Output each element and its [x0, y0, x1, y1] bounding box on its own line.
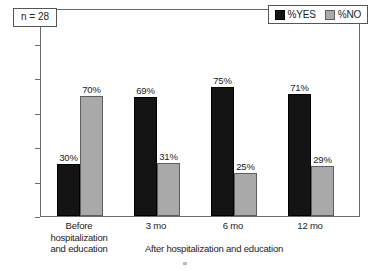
sample-size-box: n = 28: [13, 8, 57, 27]
x-group-label-line: Before: [50, 220, 107, 232]
bar-value-label: 69%: [130, 85, 161, 96]
bar-value-label: 31%: [153, 151, 184, 162]
legend-label-yes: %YES: [288, 9, 316, 20]
x-group-label-line: hospitalization: [50, 232, 107, 244]
bar-value-label: 71%: [284, 82, 315, 93]
x-group-label-line: and education: [50, 243, 107, 255]
legend-swatch-no-icon: [325, 10, 335, 20]
bar-value-label: 29%: [307, 154, 338, 165]
bar-no-0: [80, 96, 103, 216]
y-tick-mark: [35, 217, 40, 218]
x-group-label-line: 3 mo: [146, 220, 166, 232]
bar-no-1: [157, 163, 180, 216]
bar-yes-0: [57, 164, 80, 216]
x-group-label-2: 6 mo: [223, 220, 243, 232]
bar-chart-figure: 0%20%40%60%80%100% 30%70%69%31%75%25%71%…: [0, 0, 372, 271]
x-group-label-3: 12 mo: [297, 220, 322, 232]
chart-legend: %YES %NO: [268, 5, 368, 24]
scan-artifact: [183, 262, 187, 265]
bar-no-3: [311, 166, 334, 216]
legend-label-no: %NO: [338, 9, 361, 20]
plot-area: 30%70%69%31%75%25%71%29%: [40, 9, 360, 217]
legend-swatch-yes-icon: [275, 10, 285, 20]
bar-value-label: 70%: [76, 84, 107, 95]
x-group-label-0: Beforehospitalizationand education: [50, 220, 107, 255]
x-group-label-line: 12 mo: [297, 220, 322, 232]
bar-no-2: [234, 173, 257, 216]
legend-item-no: %NO: [325, 9, 361, 20]
bar-value-label: 25%: [230, 161, 261, 172]
legend-item-yes: %YES: [275, 9, 316, 20]
bar-value-label: 75%: [207, 75, 238, 86]
x-group-label-1: 3 mo: [146, 220, 166, 232]
x-axis-caption: After hospitalization and education: [145, 243, 283, 254]
bar-yes-2: [211, 87, 234, 216]
x-group-label-line: 6 mo: [223, 220, 243, 232]
